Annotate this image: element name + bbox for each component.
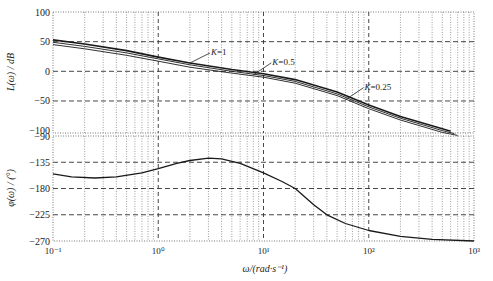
phase-tick-label: −90: [34, 131, 50, 142]
bode-plot: K=1K=0.5K=0.25 100500−50−100−90−135−180−…: [0, 0, 493, 281]
magnitude-tick-label: 0: [45, 66, 50, 77]
magnitude-tick-label: 100: [35, 7, 50, 18]
curve-annotations: K=1K=0.5K=0.25: [190, 47, 392, 100]
phase-tick-label: −270: [29, 236, 50, 247]
x-axis-label: ω/(rad·s⁻¹): [243, 263, 288, 275]
frequency-tick-label: 10²: [363, 246, 375, 256]
annotation-label: K=0.25: [363, 82, 391, 92]
phase-tick-label: −225: [29, 209, 50, 220]
bode-plot-svg: K=1K=0.5K=0.25 100500−50−100−90−135−180−…: [0, 0, 493, 281]
axis-tick-labels: 100500−50−100−90−135−180−225−27010⁻¹10⁰1…: [29, 7, 480, 257]
phase-tick-label: −180: [29, 183, 50, 194]
frequency-tick-label: 10⁰: [152, 246, 165, 256]
frequency-tick-label: 10¹: [258, 246, 270, 256]
magnitude-y-axis-label: L(ω) / dB: [5, 53, 17, 92]
phase-tick-label: −135: [29, 157, 50, 168]
annotation-label: K=0.5: [271, 57, 295, 67]
magnitude-curve-K-0-25: [53, 45, 458, 136]
annotation-leader-line: [345, 88, 363, 100]
magnitude-curves: [53, 40, 458, 135]
frequency-tick-label: 10³: [468, 246, 480, 256]
magnitude-tick-label: 50: [40, 36, 50, 47]
annotation-leader-line: [190, 53, 210, 63]
phase-y-axis-label: φ(ω) / (°): [5, 168, 17, 206]
magnitude-tick-label: −50: [34, 95, 50, 106]
annotation-label: K=1: [210, 47, 227, 57]
magnitude-grid: [53, 12, 474, 133]
frequency-tick-label: 10⁻¹: [45, 246, 62, 256]
phase-grid: [53, 136, 474, 241]
